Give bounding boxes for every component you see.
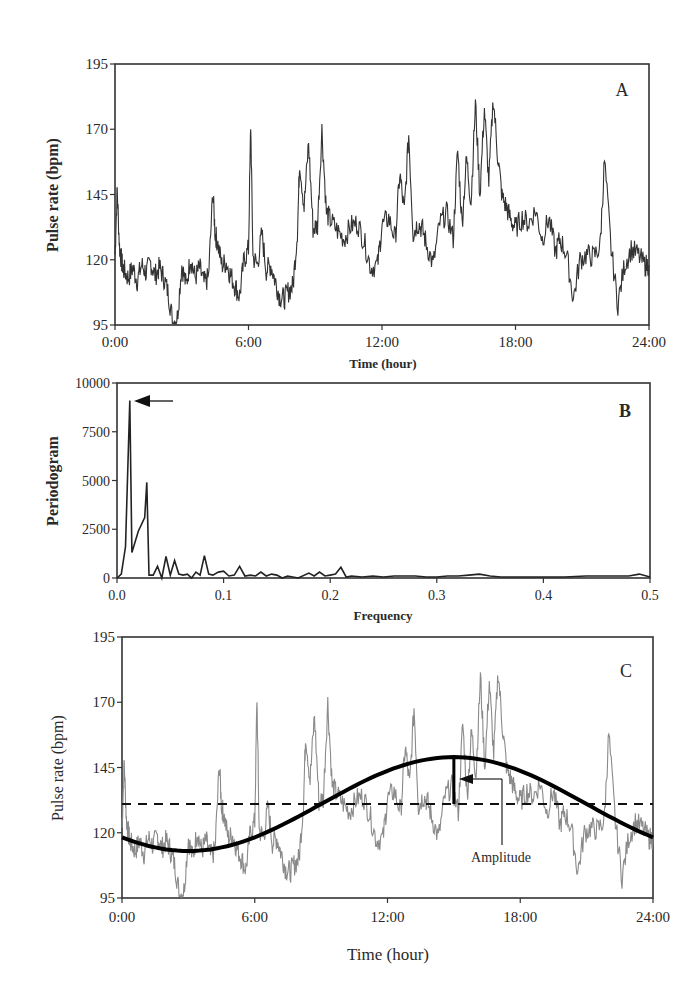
panel-a-frame <box>115 64 649 325</box>
y-tick-label: 10000 <box>75 376 110 391</box>
panel-a-label: A <box>616 80 629 100</box>
figure: 95120145170195 0:006:0012:0018:0024:00 A… <box>0 0 691 1008</box>
panel-a-x-axis-title: Time (hour) <box>349 356 416 371</box>
y-tick-label: 95 <box>100 890 115 906</box>
y-tick-label: 5000 <box>82 474 110 489</box>
y-tick-label: 170 <box>93 694 116 710</box>
x-tick-label: 0.2 <box>321 588 339 603</box>
panel-c-x-axis-title: Time (hour) <box>347 945 429 964</box>
panel-b-y-axis-title: Periodogram <box>44 435 62 525</box>
panel-b-periodogram-line <box>117 401 650 579</box>
y-tick-label: 195 <box>86 56 109 72</box>
y-tick-label: 95 <box>93 317 108 333</box>
y-tick-label: 2500 <box>82 522 110 537</box>
peak-arrow-icon <box>134 395 173 407</box>
x-tick-label: 6:00 <box>235 334 262 350</box>
x-tick-label: 0:00 <box>102 334 129 350</box>
panel-b-x-ticks: 0.00.10.20.30.40.5 <box>108 578 659 603</box>
x-tick-label: 0.1 <box>215 588 233 603</box>
panel-b-label: B <box>619 401 631 421</box>
panel-c-frame <box>122 637 653 898</box>
panel-c-label: C <box>620 661 632 681</box>
panel-a-x-ticks: 0:006:0012:0018:0024:00 <box>102 325 666 350</box>
panel-b-y-ticks: 025005000750010000 <box>75 376 117 586</box>
panel-a-pulse-line <box>115 99 649 323</box>
x-tick-label: 12:00 <box>370 909 404 925</box>
y-tick-label: 120 <box>86 252 109 268</box>
x-tick-label: 0.4 <box>535 588 553 603</box>
x-tick-label: 0.3 <box>428 588 446 603</box>
panel-c: 95120145170195 0:006:0012:0018:0024:00 A… <box>49 629 670 964</box>
x-tick-label: 0.0 <box>108 588 126 603</box>
panel-c-y-ticks: 95120145170195 <box>93 629 123 906</box>
y-tick-label: 120 <box>93 825 116 841</box>
amplitude-label: Amplitude <box>471 850 531 865</box>
panel-a: 95120145170195 0:006:0012:0018:0024:00 A… <box>44 56 666 371</box>
x-tick-label: 24:00 <box>632 334 666 350</box>
x-tick-label: 0:00 <box>109 909 136 925</box>
y-tick-label: 145 <box>86 187 109 203</box>
y-tick-label: 0 <box>103 571 110 586</box>
panel-b-x-axis-title: Frequency <box>354 608 413 623</box>
x-tick-label: 24:00 <box>636 909 670 925</box>
panel-c-pulse-line <box>122 672 653 896</box>
x-tick-label: 0.5 <box>641 588 659 603</box>
x-tick-label: 6:00 <box>241 909 268 925</box>
x-tick-label: 18:00 <box>503 909 537 925</box>
y-tick-label: 7500 <box>82 425 110 440</box>
panel-b-frame <box>117 383 650 578</box>
panel-c-y-axis-title: Pulse rate (bpm) <box>49 715 67 821</box>
y-tick-label: 145 <box>93 760 116 776</box>
panel-c-x-ticks: 0:006:0012:0018:0024:00 <box>109 898 670 925</box>
panel-b: 025005000750010000 0.00.10.20.30.40.5 B … <box>44 376 659 623</box>
x-tick-label: 12:00 <box>365 334 399 350</box>
panel-a-y-ticks: 95120145170195 <box>86 56 116 333</box>
panel-a-y-axis-title: Pulse rate (bpm) <box>44 138 62 252</box>
y-tick-label: 170 <box>86 121 109 137</box>
y-tick-label: 195 <box>93 629 116 645</box>
x-tick-label: 18:00 <box>498 334 532 350</box>
